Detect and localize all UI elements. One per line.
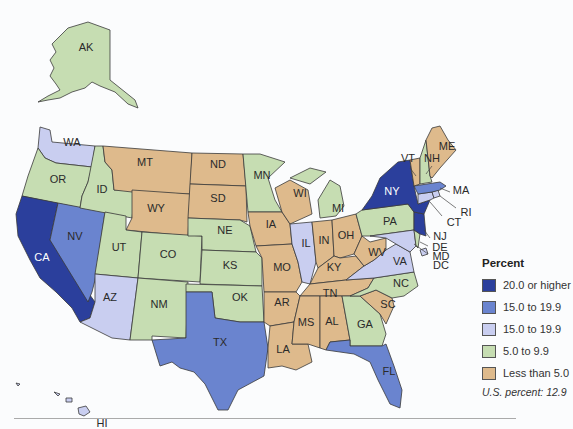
label-fl: FL	[383, 365, 396, 377]
label-ut: UT	[112, 241, 127, 253]
legend-label: 20.0 or higher	[503, 279, 571, 291]
label-la: LA	[276, 343, 290, 355]
label-oh: OH	[338, 229, 355, 241]
label-ne: NE	[217, 224, 232, 236]
label-ak: AK	[79, 41, 94, 53]
label-ca: CA	[34, 251, 50, 263]
label-nd: ND	[210, 158, 226, 170]
state-mt[interactable]	[103, 146, 192, 194]
label-mo: MO	[273, 261, 291, 273]
us-percent-note: U.S. percent: 12.9	[482, 386, 572, 398]
label-tn: TN	[323, 287, 338, 299]
label-dc: DC	[433, 259, 449, 271]
state-hi[interactable]	[16, 383, 90, 416]
label-mi: MI	[332, 202, 344, 214]
label-mt: MT	[137, 156, 153, 168]
label-il: IL	[301, 237, 310, 249]
bottom-divider	[14, 418, 516, 419]
legend-item: Less than 5.0	[482, 362, 572, 384]
label-co: CO	[160, 248, 177, 260]
label-me: ME	[439, 140, 456, 152]
label-ar: AR	[274, 296, 289, 308]
legend-item: 15.0 to 19.9	[482, 296, 572, 318]
legend-label: 15.0 to 19.9	[503, 323, 561, 335]
label-ri: RI	[461, 206, 472, 218]
label-sd: SD	[210, 192, 225, 204]
label-ma: MA	[453, 184, 470, 196]
label-nh: NH	[424, 152, 440, 164]
leader-ri	[440, 196, 456, 208]
label-az: AZ	[103, 291, 117, 303]
label-mn: MN	[253, 169, 270, 181]
leader-de	[420, 242, 428, 246]
label-al: AL	[325, 315, 338, 327]
label-in: IN	[319, 234, 330, 246]
label-tx: TX	[213, 336, 228, 348]
legend-label: 15.0 to 19.9	[503, 301, 561, 313]
label-ks: KS	[223, 259, 238, 271]
legend-label: 5.0 to 9.9	[503, 345, 549, 357]
label-nc: NC	[393, 277, 409, 289]
legend-item: 15.0 to 19.9	[482, 318, 572, 340]
legend-item: 20.0 or higher	[482, 274, 572, 296]
legend-label: Less than 5.0	[503, 367, 569, 379]
label-wa: WA	[63, 136, 81, 148]
label-wy: WY	[147, 202, 165, 214]
label-wi: WI	[293, 187, 306, 199]
label-ia: IA	[266, 218, 277, 230]
label-wv: WV	[368, 246, 386, 258]
label-va: VA	[393, 255, 408, 267]
label-ny: NY	[384, 185, 400, 197]
label-nv: NV	[67, 230, 83, 242]
legend-swatch-tan	[482, 367, 496, 380]
label-vt: VT	[401, 152, 415, 164]
label-ms: MS	[298, 316, 315, 328]
legend-swatch-green	[482, 345, 496, 358]
label-pa: PA	[383, 215, 398, 227]
label-ky: KY	[327, 261, 342, 273]
legend-swatch-dark-blue	[482, 279, 496, 292]
label-nm: NM	[150, 298, 167, 310]
legend: Percent 20.0 or higher 15.0 to 19.9 15.0…	[482, 257, 572, 398]
legend-swatch-medium-blue	[482, 301, 496, 314]
label-sc: SC	[380, 298, 395, 310]
leader-ma	[440, 188, 450, 192]
label-ga: GA	[357, 318, 374, 330]
legend-item: 5.0 to 9.9	[482, 340, 572, 362]
state-mn[interactable]	[243, 154, 285, 212]
leader-ct	[430, 202, 442, 216]
label-id: ID	[97, 183, 108, 195]
label-ok: OK	[232, 291, 249, 303]
legend-title: Percent	[482, 257, 572, 269]
state-ak[interactable]	[38, 22, 138, 108]
label-ct: CT	[447, 216, 462, 228]
label-or: OR	[50, 173, 67, 185]
legend-swatch-light-blue	[482, 323, 496, 336]
